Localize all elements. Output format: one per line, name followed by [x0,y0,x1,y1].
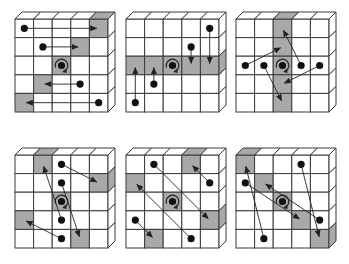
grid-cell [89,75,108,94]
dot-marker [39,43,46,50]
panel-6 [236,148,336,248]
grid-cell [71,56,90,75]
grid-cell [145,93,164,112]
grid-cell [236,211,255,230]
grid-cell [273,155,292,174]
grid-cell [310,75,329,94]
grid-cell [310,174,329,193]
grid-transformation-figure [0,0,349,264]
grid-cell [236,93,255,112]
grid-cell [15,229,34,248]
center-dot [279,62,286,69]
shaded-cell [255,174,274,193]
grid-cell [200,75,219,94]
panel-3 [236,12,336,112]
dot-marker [77,81,84,88]
grid-cell [200,229,219,248]
shaded-cell [273,93,292,112]
grid-cell [89,56,108,75]
grid-cell [292,19,311,38]
dot-marker [298,161,305,168]
grid-cell [89,211,108,230]
grid-cell [236,38,255,57]
grid-cell [15,56,34,75]
shaded-cell [89,174,108,193]
grid-cell [89,229,108,248]
grid-cell [273,174,292,193]
grid-cell [126,155,145,174]
shaded-cell [71,229,90,248]
grid-cell [310,192,329,211]
grid-cell [15,174,34,193]
grid-cell [163,75,182,94]
shaded-cell [236,155,255,174]
grid-cell [273,211,292,230]
grid-cell [310,38,329,57]
grid-cell [15,38,34,57]
grid-cell [89,155,108,174]
grid-cell [255,93,274,112]
grid-cell [89,192,108,211]
grid-cell [273,229,292,248]
panel-2 [126,12,226,112]
shaded-cell [15,211,34,230]
dot-marker [260,62,267,69]
grid-cell [15,192,34,211]
shaded-cell [292,211,311,230]
grid-cell [310,93,329,112]
dot-marker [21,25,28,32]
dot-marker [206,179,213,186]
grid-cell [71,192,90,211]
grid-cell [182,75,201,94]
panel-4 [15,148,115,248]
grid-cell [236,192,255,211]
dot-marker [150,161,157,168]
grid-cell [126,192,145,211]
grid-cell [292,229,311,248]
dot-marker [206,25,213,32]
grid-cell [15,75,34,94]
grid-cell [200,155,219,174]
grid-cell [236,229,255,248]
grid-cell [163,93,182,112]
dot-marker [316,62,323,69]
dot-marker [58,161,65,168]
grid-cell [126,229,145,248]
grid-cell [126,38,145,57]
dot-marker [132,99,139,106]
grid-cell [255,155,274,174]
grid-cell [200,192,219,211]
grid-cell [310,19,329,38]
grid-cell [145,174,164,193]
dot-marker [188,235,195,242]
shaded-cell [273,19,292,38]
center-dot [169,198,176,205]
grid-cell [292,93,311,112]
dot-marker [150,81,157,88]
grid-cell [126,19,145,38]
dot-marker [95,99,102,106]
grid-cell [182,174,201,193]
center-dot [58,62,65,69]
grid-cell [163,19,182,38]
shaded-cell [310,229,329,248]
grid-cell [310,155,329,174]
dot-marker [242,62,249,69]
dot-marker [58,235,65,242]
center-dot [169,62,176,69]
grid-cell [15,155,34,174]
grid-cell [236,75,255,94]
grid-cell [182,211,201,230]
grid-cell [89,38,108,57]
grid-cell [182,93,201,112]
grid-cell [255,19,274,38]
dot-marker [58,217,65,224]
grid-cell [145,211,164,230]
grid-cell [163,155,182,174]
grid-cell [145,19,164,38]
panel-5 [126,148,226,248]
center-dot [279,198,286,205]
grid-cell [163,229,182,248]
grid-cell [163,38,182,57]
panel-1 [15,12,115,112]
